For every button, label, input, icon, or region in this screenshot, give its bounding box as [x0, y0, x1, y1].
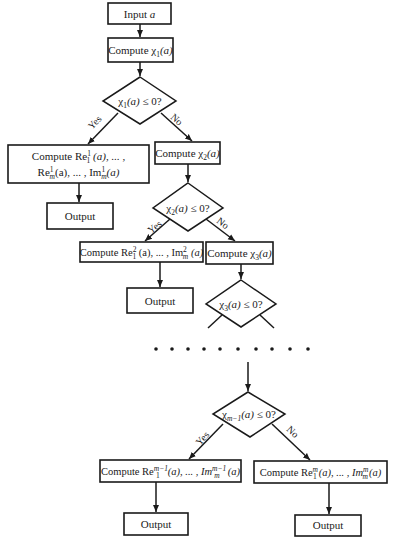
edge-label-yes: Yes	[193, 429, 211, 447]
output-3-node: Output	[124, 513, 188, 535]
decision-m-minus-1-node: χm−1(a) ≤ 0?	[213, 392, 285, 437]
compute-re-m-node: Compute Rem1(a), ... , Immm(a)	[254, 461, 387, 483]
compute-re-m-minus-1-node: Compute Rem−11(a), ... , Imm−1m(a)	[100, 460, 241, 482]
edge-label-yes: Yes	[86, 113, 104, 131]
input-node: Input a	[108, 3, 171, 24]
output-4-node: Output	[295, 515, 361, 536]
edge-label-yes: Yes	[145, 218, 163, 236]
output-2-node: Output	[127, 288, 193, 313]
svg-text:Output: Output	[141, 518, 172, 530]
edge-label-no: No	[169, 111, 185, 127]
compute-re2-node: Compute Re21 (a), ... , Im2m (a)	[80, 242, 204, 262]
compute-chi2-node: Compute χ2(a)	[155, 142, 220, 164]
edge-label-no: No	[215, 215, 231, 231]
svg-text:Output: Output	[65, 210, 96, 222]
svg-text:Output: Output	[145, 295, 176, 307]
compute-re1-node: Compute Re11 (a), ... , Re1m(a), ... , I…	[8, 145, 149, 183]
output-1-node: Output	[47, 203, 113, 229]
svg-text:Output: Output	[313, 519, 344, 531]
svg-text:Input a: Input a	[124, 8, 156, 20]
decision-3-node: χ3(a) ≤ 0?	[206, 280, 276, 328]
compute-chi3-node: Compute χ3(a)	[206, 242, 273, 264]
compute-chi1-node: Compute χ1(a)	[108, 38, 173, 62]
continuation-ellipsis	[154, 347, 310, 351]
flowchart-canvas: Input a Compute χ1(a) χ1(a) ≤ 0? Yes No …	[0, 0, 396, 551]
